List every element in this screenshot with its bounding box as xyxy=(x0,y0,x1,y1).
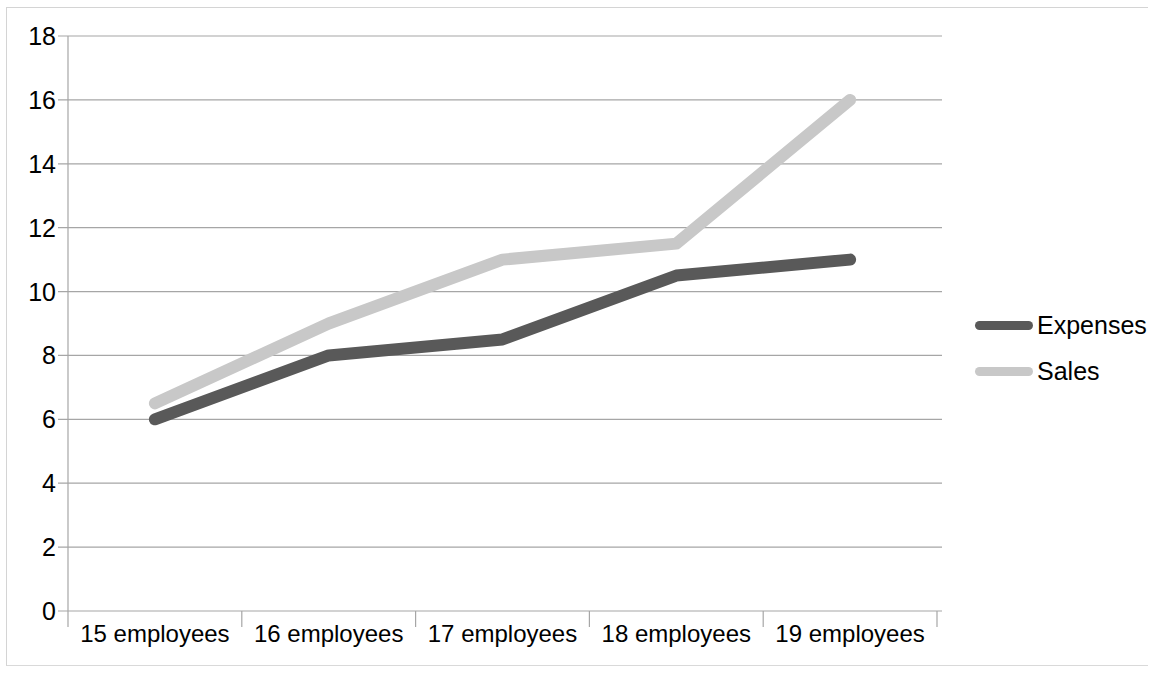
y-axis-tick-label: 8 xyxy=(42,343,56,368)
series-line-sales xyxy=(155,100,850,403)
legend-item-expenses[interactable]: Expenses xyxy=(975,302,1147,348)
legend-item-sales[interactable]: Sales xyxy=(975,348,1147,394)
y-axis-tick-label: 14 xyxy=(28,151,56,176)
y-axis-tick-label: 10 xyxy=(28,279,56,304)
x-axis-tick-label: 16 employees xyxy=(242,622,416,646)
x-axis-tick-label: 15 employees xyxy=(68,622,242,646)
x-axis-tick-label: 19 employees xyxy=(763,622,937,646)
legend-label-expenses: Expenses xyxy=(1037,313,1147,338)
series-lines xyxy=(155,100,850,419)
y-axis-tick-label: 2 xyxy=(42,535,56,560)
y-axis-tick-label: 18 xyxy=(28,24,56,49)
line-chart: 024681012141618 15 employees16 employees… xyxy=(0,0,1152,674)
y-axis-tick-label: 12 xyxy=(28,215,56,240)
y-axis-tick-label: 0 xyxy=(42,599,56,624)
x-axis-tick-label: 18 employees xyxy=(589,622,763,646)
legend-swatch-expenses xyxy=(975,321,1033,330)
gridlines xyxy=(58,36,942,611)
legend-label-sales: Sales xyxy=(1037,359,1100,384)
y-axis-tick-label: 16 xyxy=(28,87,56,112)
x-axis-tick-label: 17 employees xyxy=(416,622,590,646)
chart-legend: Expenses Sales xyxy=(975,302,1147,394)
series-line-expenses xyxy=(155,260,850,420)
legend-swatch-sales xyxy=(975,367,1033,376)
y-axis-tick-label: 6 xyxy=(42,407,56,432)
y-axis-tick-label: 4 xyxy=(42,471,56,496)
